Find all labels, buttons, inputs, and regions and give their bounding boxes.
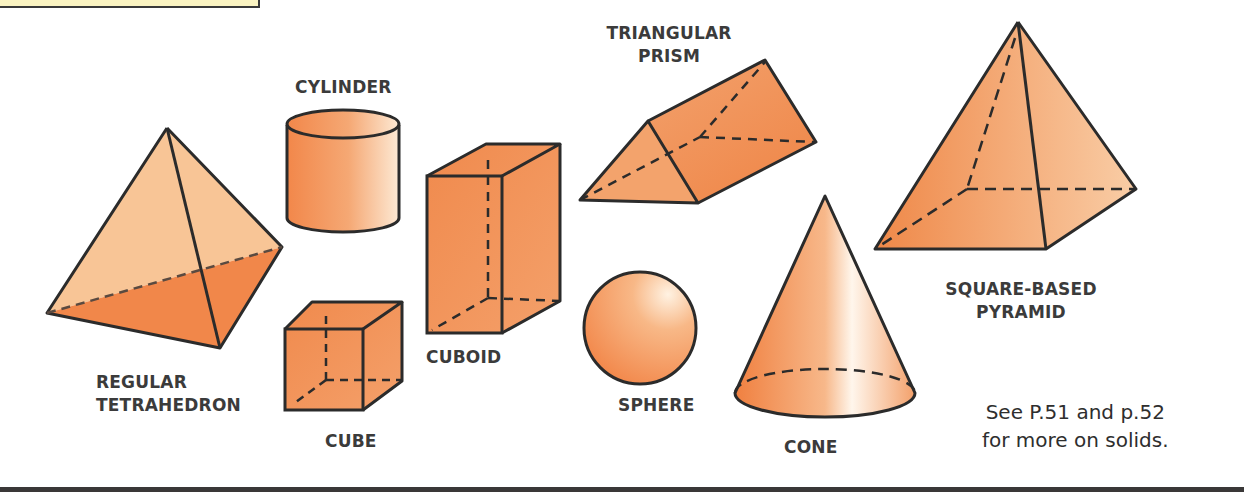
cross-reference-line: for more on solids. bbox=[982, 426, 1169, 454]
label-line: TRIANGULAR bbox=[598, 22, 740, 45]
label-cone: CONE bbox=[784, 436, 838, 459]
cross-reference-line: See P.51 and p.52 bbox=[982, 398, 1169, 426]
cuboid-shape bbox=[427, 144, 560, 333]
label-cuboid: CUBOID bbox=[426, 346, 501, 369]
label-triangular-prism: TRIANGULAR PRISM bbox=[598, 22, 740, 68]
label-line: TETRAHEDRON bbox=[96, 394, 241, 417]
label-line: SQUARE-BASED bbox=[932, 278, 1110, 301]
label-cylinder: CYLINDER bbox=[295, 76, 392, 99]
label-line: PYRAMID bbox=[932, 301, 1110, 324]
label-sphere: SPHERE bbox=[618, 394, 694, 417]
label-cube: CUBE bbox=[325, 430, 377, 453]
cross-reference-note: See P.51 and p.52 for more on solids. bbox=[982, 398, 1169, 454]
label-square-based-pyramid: SQUARE-BASED PYRAMID bbox=[932, 278, 1110, 324]
square-based-pyramid-shape bbox=[875, 22, 1136, 249]
triangular-prism-shape bbox=[580, 60, 816, 203]
sphere-shape bbox=[584, 272, 696, 384]
regular-tetrahedron-shape bbox=[47, 128, 282, 348]
bottom-divider bbox=[0, 487, 1244, 492]
cylinder-shape bbox=[287, 110, 399, 232]
label-line: PRISM bbox=[598, 45, 740, 68]
label-line: REGULAR bbox=[96, 371, 241, 394]
cube-shape bbox=[285, 302, 402, 410]
label-regular-tetrahedron: REGULAR TETRAHEDRON bbox=[96, 371, 241, 417]
